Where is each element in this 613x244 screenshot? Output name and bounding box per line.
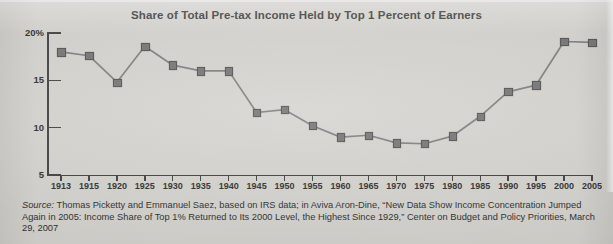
- data-point-marker: [337, 133, 345, 141]
- data-point-marker: [57, 48, 65, 56]
- source-note: Source: Thomas Picketty and Emmanuel Sae…: [22, 200, 600, 235]
- series-line: [0, 0, 613, 192]
- data-point-marker: [477, 113, 485, 121]
- data-point-marker: [253, 109, 261, 117]
- data-point-marker: [85, 52, 93, 60]
- data-point-marker: [560, 38, 568, 46]
- figure-panel: Share of Total Pre-tax Income Held by To…: [0, 0, 613, 192]
- data-point-marker: [169, 61, 177, 69]
- data-point-marker: [449, 132, 457, 140]
- data-point-marker: [532, 81, 540, 89]
- x-axis-label: 2005: [575, 181, 609, 191]
- y-axis-tick: [48, 127, 61, 129]
- source-line-1: Thomas Picketty and Emmanuel Saez, based…: [54, 200, 485, 210]
- data-point-marker: [365, 132, 373, 140]
- y-axis-label: 10: [0, 122, 44, 133]
- y-axis-tick: [48, 174, 61, 176]
- source-label: Source:: [22, 200, 54, 210]
- data-point-marker: [141, 43, 149, 51]
- y-axis-tick: [48, 32, 61, 34]
- data-point-marker: [225, 67, 233, 75]
- data-point-marker: [113, 79, 121, 87]
- y-axis-label: 20%: [0, 27, 44, 38]
- data-point-marker: [393, 139, 401, 147]
- y-axis-label: 15: [0, 74, 44, 85]
- data-point-marker: [197, 67, 205, 75]
- page-right-edge: [606, 0, 613, 192]
- data-point-marker: [281, 106, 289, 114]
- data-point-marker: [421, 140, 429, 148]
- plot-area: 20%15105 1913191519201925193019351940194…: [0, 0, 613, 192]
- data-point-marker: [588, 39, 596, 47]
- data-point-marker: [504, 88, 512, 96]
- y-axis-label: 5: [0, 169, 44, 180]
- y-axis-tick: [48, 80, 61, 82]
- data-point-marker: [309, 122, 317, 130]
